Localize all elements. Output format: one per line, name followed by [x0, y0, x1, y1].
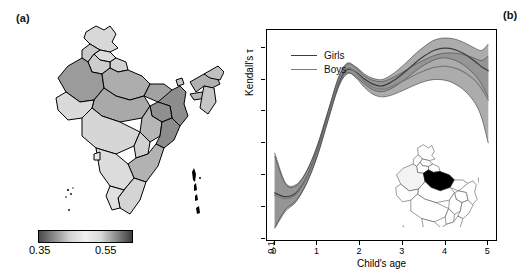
colorbar-max-label: 0.55 [95, 244, 116, 256]
x-tick-mark [274, 241, 275, 245]
x-tick-mark [402, 241, 403, 245]
legend-item-girls: Girls [291, 48, 346, 62]
legend-label-girls: Girls [324, 50, 345, 61]
legend-item-boys: Boys [291, 62, 346, 76]
colorbar-gradient [38, 230, 133, 243]
plot-area: Girls Boys [266, 29, 497, 241]
x-tick-label: 5 [479, 246, 495, 256]
india-choropleth-map [24, 22, 224, 222]
state-sikkim [176, 78, 184, 86]
legend-swatch-boys [291, 69, 317, 70]
x-tick-mark [316, 241, 317, 245]
x-tick-label: 0 [266, 246, 282, 256]
colorbar-min-label: 0.35 [29, 244, 50, 256]
x-tick-mark [487, 241, 488, 245]
inset-locator-map [393, 143, 479, 227]
chart-legend: Girls Boys [291, 48, 346, 76]
inset-locator-svg [393, 143, 479, 227]
colorbar-tick-labels: 0.35 0.55 [29, 244, 145, 260]
panel-b-label: (b) [503, 9, 517, 21]
x-tick-mark [359, 241, 360, 245]
state-goa [94, 152, 100, 160]
panel-a: (a) [0, 0, 247, 276]
legend-label-boys: Boys [324, 64, 346, 75]
x-tick-label: 4 [437, 246, 453, 256]
x-tick-label: 2 [351, 246, 367, 256]
x-axis-title: Child's age [266, 258, 497, 269]
colorbar-legend: 0.35 0.55 [38, 230, 136, 264]
legend-swatch-girls [291, 55, 317, 56]
x-tick-label: 3 [394, 246, 410, 256]
india-choropleth-svg [24, 22, 224, 222]
x-tick-label: 1 [308, 246, 324, 256]
panel-b: (b) Kendall's τ 0.150.200.250.300.350.40… [247, 0, 495, 276]
state-karnataka [96, 148, 134, 190]
lakshadweep-islands [65, 187, 74, 211]
x-tick-mark [445, 241, 446, 245]
andaman-nicobar-islands [192, 168, 201, 214]
inset-assam-ne [478, 173, 479, 185]
state-manipur-ne [200, 86, 216, 114]
